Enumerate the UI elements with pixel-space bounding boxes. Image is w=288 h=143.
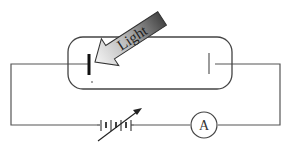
circuit-wires (11, 64, 280, 125)
light-arrow: Light (86, 5, 171, 75)
vacuum-tube (68, 37, 232, 89)
photoelectric-circuit-diagram: Light A (0, 0, 288, 143)
ammeter-label: A (199, 118, 210, 133)
electron-dot (91, 81, 93, 83)
ammeter: A (191, 112, 217, 138)
